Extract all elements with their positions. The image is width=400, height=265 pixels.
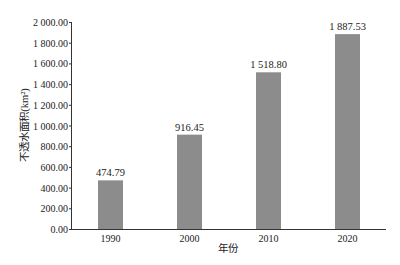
y-tick-label: 2 000.00: [33, 17, 68, 28]
y-tick-label: 0.00: [51, 224, 69, 235]
y-tick-label: 1 000.00: [33, 121, 68, 132]
bar-value-label: 1 887.53: [329, 21, 366, 32]
x-tick-label: 1990: [101, 233, 121, 244]
bar-2000: [177, 135, 202, 230]
y-tick-label: 1 400.00: [33, 79, 68, 90]
y-tick-label: 600.00: [41, 162, 69, 173]
bar-value-label: 1 518.80: [250, 59, 287, 70]
y-axis-ticks: 0.00200.00400.00600.00800.001 000.001 20…: [33, 17, 72, 235]
y-tick-label: 400.00: [41, 183, 69, 194]
x-tick-label: 2020: [338, 233, 358, 244]
bars: 474.79916.451 518.801 887.53: [96, 21, 366, 229]
x-tick-label: 2000: [180, 233, 200, 244]
bar-2020: [335, 34, 360, 229]
y-tick-label: 200.00: [41, 203, 69, 214]
y-tick-label: 1 200.00: [33, 100, 68, 111]
bar-2010: [256, 72, 281, 229]
bar-value-label: 474.79: [96, 167, 125, 178]
bar-value-label: 916.45: [175, 122, 204, 133]
y-tick-label: 1 600.00: [33, 58, 68, 69]
bar-chart: 0.00200.00400.00600.00800.001 000.001 20…: [0, 0, 400, 265]
y-tick-label: 1 800.00: [33, 38, 68, 49]
bar-1990: [98, 180, 123, 229]
y-axis-title: 不透水面积(km²): [19, 88, 31, 162]
x-axis-title: 年份: [218, 242, 239, 254]
y-tick-label: 800.00: [41, 141, 69, 152]
x-tick-label: 2010: [259, 233, 279, 244]
